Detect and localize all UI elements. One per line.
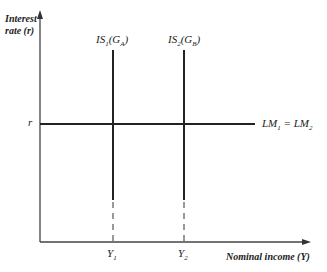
x-axis-title: Nominal income (Y) [226, 251, 310, 263]
is2-label: IS2(GB) [168, 33, 200, 48]
lm-label: LM1 = LM2 [262, 117, 313, 132]
x-tick-y1: Y1 [107, 247, 117, 262]
y-axis-title-line1: Interest [5, 13, 37, 25]
x-tick-y2: Y2 [178, 247, 188, 262]
y-axis-arrow-icon [37, 10, 43, 19]
is1-label: IS1(GA) [96, 33, 128, 48]
x-axis-arrow-icon [302, 239, 311, 245]
y-axis-title-line2: rate (r) [5, 25, 37, 37]
interest-level-label: r [28, 116, 32, 128]
y-axis-title: Interest rate (r) [5, 13, 37, 37]
is-lm-diagram [0, 0, 327, 272]
